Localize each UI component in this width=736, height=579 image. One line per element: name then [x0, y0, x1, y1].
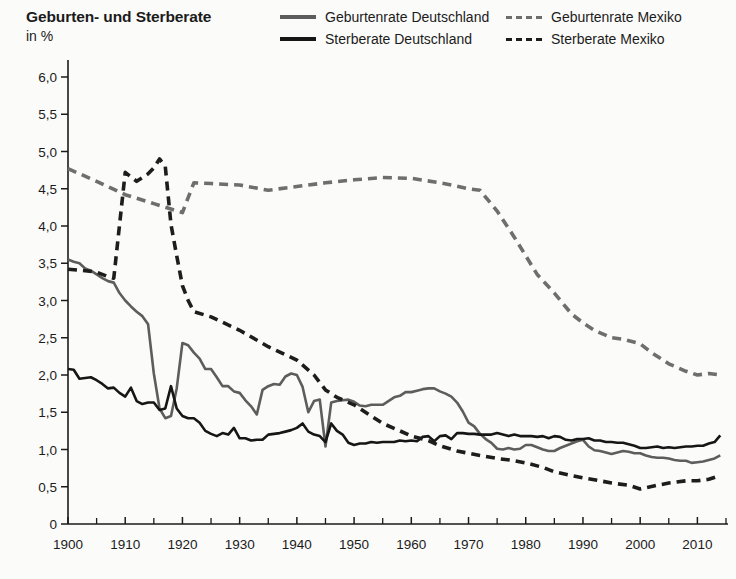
x-tick-label: 1900 — [53, 537, 83, 552]
y-tick-label: 3,5 — [38, 256, 57, 271]
series-line-geburtenrate-mexiko — [68, 169, 720, 375]
series-line-geburtenrate-deutschland — [68, 260, 720, 463]
x-tick-label: 1910 — [110, 537, 140, 552]
y-tick-label: 2,5 — [38, 331, 57, 346]
y-tick-label: 1,5 — [38, 405, 57, 420]
y-tick-label: 4,0 — [38, 219, 57, 234]
x-tick-label: 2000 — [625, 537, 655, 552]
x-tick-label: 1950 — [339, 537, 369, 552]
y-tick-label: 0 — [49, 517, 57, 532]
x-tick-label: 2010 — [682, 537, 712, 552]
y-tick-label: 3,0 — [38, 294, 57, 309]
y-tick-label: 4,5 — [38, 182, 57, 197]
series-line-sterberate-deutschland — [68, 369, 720, 448]
y-tick-label: 2,0 — [38, 368, 57, 383]
x-tick-label: 1940 — [282, 537, 312, 552]
x-tick-label: 1930 — [225, 537, 255, 552]
y-tick-label: 6,0 — [38, 70, 57, 85]
x-tick-label: 1970 — [453, 537, 483, 552]
x-tick-label: 1920 — [167, 537, 197, 552]
plot-area: 00,51,01,52,02,53,03,54,04,55,05,56,0190… — [0, 0, 736, 579]
y-tick-label: 1,0 — [38, 443, 57, 458]
chart-container: Geburten- und Sterberate in % Geburtenra… — [0, 0, 736, 579]
y-tick-label: 0,5 — [38, 480, 57, 495]
y-tick-label: 5,0 — [38, 145, 57, 160]
x-tick-label: 1960 — [396, 537, 426, 552]
y-tick-label: 5,5 — [38, 107, 57, 122]
x-tick-label: 1980 — [511, 537, 541, 552]
x-tick-label: 1990 — [568, 537, 598, 552]
